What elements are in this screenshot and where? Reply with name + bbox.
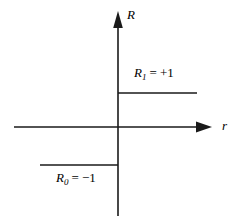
level-subscript-R0: 0 [64, 177, 69, 187]
R-axis-label: R [127, 8, 135, 21]
level-label-R1: R1= +1 [134, 66, 174, 82]
r-axis-arrowhead [196, 122, 212, 133]
level-symbol-R1: R [134, 65, 142, 80]
level-value-R1: = +1 [149, 65, 173, 80]
level-subscript-R1: 1 [142, 72, 147, 82]
R-axis-arrowhead [113, 11, 123, 28]
level-label-R0: R0= −1 [56, 171, 96, 187]
level-value-R0: = −1 [71, 170, 95, 185]
r-axis-label: r [222, 119, 227, 132]
diagram-canvas [0, 0, 241, 221]
level-symbol-R0: R [56, 170, 64, 185]
coordinate-diagram: R r R1= +1 R0= −1 [0, 0, 241, 221]
